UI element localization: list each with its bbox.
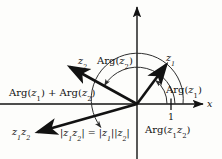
arg-sum-label: Arg(z1) + Arg(z2) <box>9 88 95 98</box>
vector-z2 <box>70 67 137 104</box>
arc-label-arg-z2: Arg(z2) <box>97 56 133 66</box>
vector-group <box>38 65 166 132</box>
arc-label-arg-z1z2: Arg(z1z2) <box>145 125 190 135</box>
vector-label-z1z2: z1z2 <box>12 127 30 137</box>
complex-product-argument-diagram: z2 z1 z1z2 Arg(z2) Arg(z1) Arg(z1z2) Arg… <box>0 0 222 159</box>
modulus-equation-label: |z1z2| = |z1||z2| <box>60 128 130 138</box>
unit-tick-label: 1 <box>168 112 174 122</box>
arc-label-arg-z1: Arg(z1) <box>166 85 202 95</box>
vector-label-z2: z2 <box>78 56 87 66</box>
vector-z1 <box>137 65 166 104</box>
vector-label-z1: z1 <box>166 53 175 63</box>
x-axis-label: x <box>207 99 212 109</box>
